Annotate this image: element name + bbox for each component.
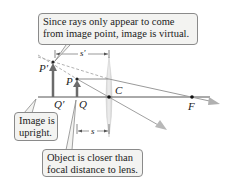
callout-object-position: Object is closer than focal distance to …: [42, 149, 143, 177]
dimension-arrow-icon: [78, 130, 82, 133]
lens-center-label: C: [115, 85, 122, 96]
callout-text-line: Image is: [19, 115, 53, 127]
callout-pointer-virtual: [55, 45, 70, 61]
callout-text-line: from image point, image is virtual.: [43, 28, 193, 40]
callout-pointer-upright: [24, 99, 36, 113]
callout-text-line: Since rays only appear to come: [43, 16, 193, 28]
ray-arrowhead-icon: [208, 97, 220, 105]
image-point-dot: [51, 60, 54, 63]
focal-point-dot: [190, 95, 194, 99]
image-distance-label: s′: [80, 48, 85, 59]
ray-arrowhead-icon: [155, 120, 167, 130]
dashed-extension-ray-1: [38, 57, 109, 79]
object-base-label: Q: [79, 99, 87, 110]
image-tip-label: P′: [39, 63, 48, 74]
image-arrowhead-icon: [49, 63, 57, 71]
callout-image-upright: Image is upright.: [14, 112, 58, 141]
focal-point-label: F: [188, 101, 195, 112]
dimension-arrow-icon: [104, 130, 108, 133]
image-base-label: Q′: [54, 99, 64, 110]
callout-text-line: focal distance to lens.: [47, 164, 138, 176]
callout-text-line: upright.: [19, 127, 53, 139]
callout-text-line: Object is closer than: [47, 152, 138, 164]
dimension-arrow-icon: [104, 53, 108, 56]
object-tip-label: P: [66, 76, 73, 87]
ray-through-focus: [109, 79, 214, 102]
callout-virtual-image: Since rays only appear to come from imag…: [38, 13, 198, 45]
object-distance-label: s: [91, 126, 95, 137]
object-point-dot: [75, 77, 78, 80]
lens-center-dot: [107, 95, 111, 99]
callout-pointer-object: [66, 100, 76, 150]
